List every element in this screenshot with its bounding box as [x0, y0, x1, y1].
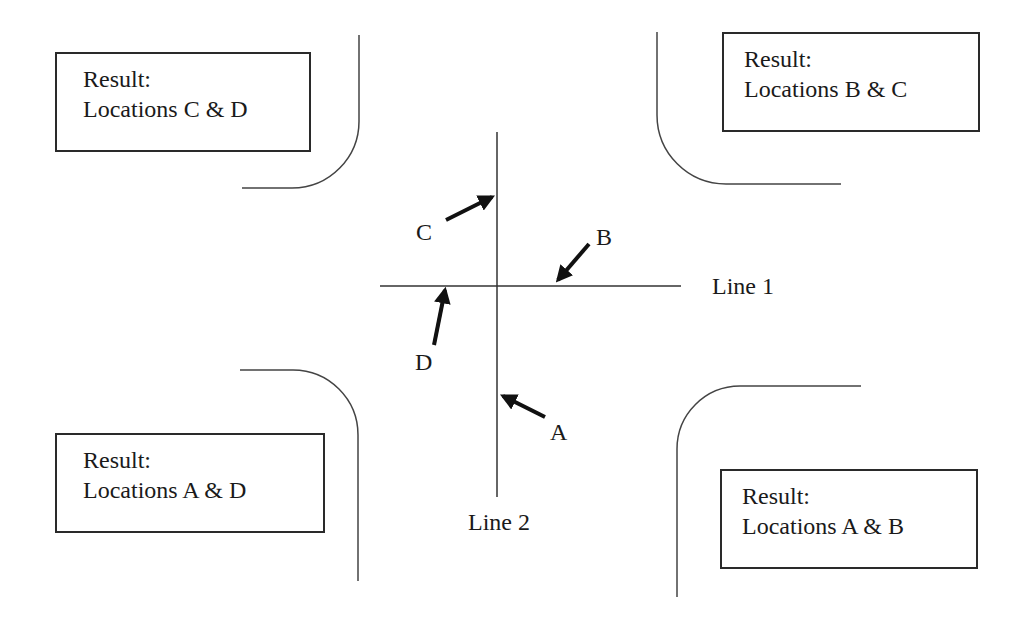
result-box-top-left: Result: Locations C & D [55, 52, 311, 152]
location-label-c: C [416, 220, 432, 244]
result-heading: Result: [742, 481, 976, 511]
arrow-d [434, 290, 445, 345]
result-heading: Result: [83, 64, 309, 94]
result-text: Locations A & B [742, 511, 976, 541]
result-box-bottom-left: Result: Locations A & D [55, 433, 325, 533]
result-box-top-right: Result: Locations B & C [722, 32, 980, 132]
location-label-a: A [550, 420, 567, 444]
result-text: Locations C & D [83, 94, 309, 124]
result-text: Locations A & D [83, 475, 323, 505]
line-2-label: Line 2 [468, 510, 530, 534]
line-1-label: Line 1 [712, 274, 774, 298]
arrow-a [503, 396, 545, 417]
location-label-d: D [415, 350, 432, 374]
arrow-b [558, 244, 589, 280]
result-heading: Result: [744, 44, 978, 74]
result-box-bottom-right: Result: Locations A & B [720, 469, 978, 569]
location-label-b: B [596, 225, 612, 249]
result-heading: Result: [83, 445, 323, 475]
result-text: Locations B & C [744, 74, 978, 104]
arrow-c [446, 197, 492, 220]
